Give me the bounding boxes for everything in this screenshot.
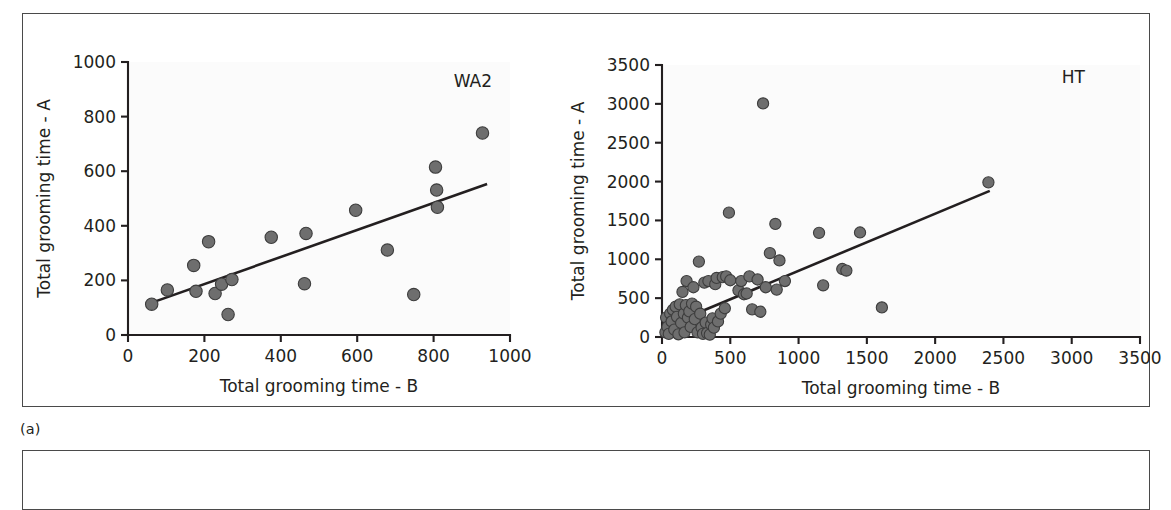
y-axis-tick-label: 2000 [607,172,650,192]
data-point [381,244,393,256]
data-point [408,288,420,300]
data-point [779,275,790,286]
x-axis-tick-label: 1500 [845,348,888,368]
data-point [145,298,157,310]
data-point [222,308,234,320]
data-point [876,302,887,313]
data-point [741,288,752,299]
data-point [693,256,704,267]
data-point [764,247,775,258]
data-point [677,286,688,297]
y-axis-tick-label: 600 [84,161,116,181]
data-point [774,255,785,266]
x-axis-tick-label: 1000 [488,346,531,366]
scatter-plot-ht-svg: 0500100015002000250030003500050010001500… [560,13,1150,407]
y-axis-tick-label: 800 [84,107,116,127]
scatter-plot-wa2: 0200400600800100002004006008001000Total … [22,13,582,407]
data-point [298,277,310,289]
y-axis-title: Total grooming time - A [34,99,54,299]
x-axis-tick-label: 2000 [914,348,957,368]
y-axis-tick-label: 1500 [607,210,650,230]
data-point [983,177,994,188]
y-axis-tick-label: 500 [618,288,650,308]
data-point [349,204,361,216]
x-axis-tick-label: 2500 [982,348,1025,368]
data-point [771,284,782,295]
y-axis-tick-label: 0 [639,327,650,347]
x-axis-tick-label: 600 [341,346,373,366]
data-point [226,273,238,285]
x-axis-tick-label: 0 [123,346,134,366]
x-axis-tick-label: 800 [417,346,449,366]
y-axis-tick-label: 3000 [607,94,650,114]
data-point [429,161,441,173]
data-point [430,184,442,196]
data-point [188,259,200,271]
data-point [813,227,824,238]
figure-caption-a: (a) [20,421,41,437]
data-point [190,285,202,297]
y-axis-tick-label: 200 [84,270,116,290]
x-axis-tick-label: 3000 [1050,348,1093,368]
data-point [431,201,443,213]
plot-area-background [128,62,510,335]
data-point [757,98,768,109]
x-axis-tick-label: 1000 [777,348,820,368]
data-point [300,227,312,239]
data-point [818,280,829,291]
data-point [770,218,781,229]
y-axis-tick-label: 3500 [607,55,650,75]
y-axis-tick-label: 0 [105,325,116,345]
scatter-plot-ht: 0500100015002000250030003500050010001500… [560,13,1150,407]
plot-group-label: HT [1062,67,1086,87]
data-point [161,284,173,296]
data-point [755,306,766,317]
x-axis-title: Total grooming time - B [801,378,1001,398]
y-axis-title: Total grooming time - A [568,101,588,301]
data-point [202,235,214,247]
data-point [688,282,699,293]
data-point [854,227,865,238]
data-point [476,127,488,139]
data-point [725,275,736,286]
y-axis-tick-label: 1000 [73,52,116,72]
y-axis-tick-label: 1000 [607,249,650,269]
plot-area-background [662,65,1140,337]
data-point [760,282,771,293]
data-point [723,207,734,218]
data-point [719,303,730,314]
data-point [265,231,277,243]
figure-panel-b-frame [22,450,1150,510]
x-axis-tick-label: 200 [188,346,220,366]
data-point [841,265,852,276]
y-axis-tick-label: 2500 [607,133,650,153]
y-axis-tick-label: 400 [84,216,116,236]
x-axis-tick-label: 400 [265,346,297,366]
x-axis-tick-label: 500 [714,348,746,368]
x-axis-title: Total grooming time - B [219,376,419,396]
x-axis-tick-label: 3500 [1118,348,1161,368]
scatter-plot-wa2-svg: 0200400600800100002004006008001000Total … [22,13,582,407]
plot-group-label: WA2 [454,71,492,91]
x-axis-tick-label: 0 [657,348,668,368]
